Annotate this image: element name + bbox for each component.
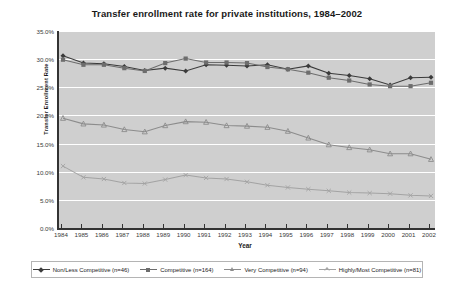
data-point-marker bbox=[61, 53, 66, 58]
data-point-marker bbox=[183, 68, 188, 73]
series-group bbox=[61, 164, 433, 198]
chart-container: Transfer enrollment rate for private ins… bbox=[0, 0, 454, 287]
data-point-marker bbox=[408, 75, 413, 80]
data-point-marker bbox=[61, 58, 65, 62]
y-axis-tick-label: 25.0% bbox=[14, 84, 54, 91]
x-axis-tick-mark bbox=[245, 224, 246, 230]
legend-marker-icon bbox=[140, 266, 157, 273]
series-group bbox=[61, 56, 433, 88]
data-point-marker bbox=[143, 69, 147, 73]
data-point-marker bbox=[347, 73, 352, 78]
data-point-marker bbox=[81, 63, 85, 67]
y-axis-tick-label: 20.0% bbox=[14, 112, 54, 119]
y-axis-tick-label: 10.0% bbox=[14, 168, 54, 175]
x-axis-tick-mark bbox=[265, 224, 266, 230]
y-axis-tick-label: 35.0% bbox=[14, 28, 54, 35]
x-axis-tick-mark bbox=[327, 224, 328, 230]
series-group bbox=[61, 53, 434, 87]
x-axis-tick-mark bbox=[306, 224, 307, 230]
y-axis-tick-label: 5.0% bbox=[14, 196, 54, 203]
legend-item[interactable]: Competitive (n=164) bbox=[140, 266, 213, 273]
chart-title: Transfer enrollment rate for private ins… bbox=[0, 8, 454, 19]
legend-item-label: Non/Less Competitive (n=46) bbox=[53, 267, 129, 273]
data-point-marker bbox=[286, 67, 290, 71]
series-line bbox=[63, 56, 431, 85]
series-line bbox=[63, 166, 431, 196]
data-point-marker bbox=[408, 84, 412, 88]
y-axis-tick-labels: 35.0%30.0%25.0%20.0%15.0%10.0%5.0%0.0% bbox=[10, 31, 54, 228]
x-axis-tick-mark bbox=[409, 224, 410, 230]
data-point-marker bbox=[61, 116, 66, 121]
data-point-marker bbox=[265, 65, 269, 69]
x-axis-tick-mark bbox=[204, 224, 205, 230]
legend-marker-icon bbox=[224, 266, 241, 273]
series-layer bbox=[59, 31, 435, 228]
y-axis-tick-label: 15.0% bbox=[14, 140, 54, 147]
plot-area bbox=[57, 31, 435, 230]
legend-item-label: Competitive (n=164) bbox=[160, 267, 213, 273]
data-point-marker bbox=[429, 81, 433, 85]
x-axis-tick-label: 2002 bbox=[414, 231, 444, 238]
legend-item-label: Very Competitive (n=94) bbox=[244, 267, 307, 273]
x-axis-tick-mark bbox=[143, 224, 144, 230]
series-line bbox=[63, 118, 431, 159]
data-point-marker bbox=[388, 84, 392, 88]
x-axis-tick-mark bbox=[61, 224, 62, 230]
data-point-marker bbox=[347, 78, 351, 82]
data-point-marker bbox=[204, 60, 208, 64]
data-point-marker bbox=[327, 76, 331, 80]
x-axis-tick-mark bbox=[286, 224, 287, 230]
legend-marker-icon bbox=[33, 266, 50, 273]
data-point-marker bbox=[326, 71, 331, 76]
series-group bbox=[61, 116, 434, 162]
data-point-marker bbox=[429, 75, 434, 80]
data-point-marker bbox=[306, 71, 310, 75]
x-axis-title: Year bbox=[57, 242, 433, 249]
data-point-marker bbox=[102, 63, 106, 67]
data-point-marker bbox=[184, 56, 188, 60]
data-point-marker bbox=[163, 61, 167, 65]
legend-marker-icon bbox=[319, 266, 336, 273]
x-axis-tick-mark bbox=[184, 224, 185, 230]
x-axis-tick-mark bbox=[81, 224, 82, 230]
legend-item[interactable]: Highly/Most Competitive (n=81) bbox=[319, 266, 421, 273]
data-point-marker bbox=[245, 61, 249, 65]
data-point-marker bbox=[122, 66, 126, 70]
x-axis-tick-mark bbox=[368, 224, 369, 230]
chart-legend: Non/Less Competitive (n=46)Competitive (… bbox=[31, 261, 423, 278]
plot-inner bbox=[59, 31, 435, 228]
data-point-marker bbox=[61, 164, 65, 168]
legend-item[interactable]: Non/Less Competitive (n=46) bbox=[33, 266, 129, 273]
x-axis-tick-mark bbox=[388, 224, 389, 230]
y-axis-tick-label: 30.0% bbox=[14, 56, 54, 63]
data-point-marker bbox=[367, 76, 372, 81]
legend-item-label: Highly/Most Competitive (n=81) bbox=[339, 267, 421, 273]
data-point-marker bbox=[224, 60, 228, 64]
x-axis-tick-mark bbox=[163, 224, 164, 230]
x-axis-tick-mark bbox=[122, 224, 123, 230]
data-point-marker bbox=[368, 82, 372, 86]
legend-item[interactable]: Very Competitive (n=94) bbox=[224, 266, 307, 273]
data-point-marker bbox=[306, 63, 311, 68]
x-axis-tick-mark bbox=[225, 224, 226, 230]
x-axis-tick-mark bbox=[347, 224, 348, 230]
data-point-marker bbox=[163, 66, 168, 71]
x-axis-tick-mark bbox=[102, 224, 103, 230]
x-axis-tick-mark bbox=[429, 224, 430, 230]
